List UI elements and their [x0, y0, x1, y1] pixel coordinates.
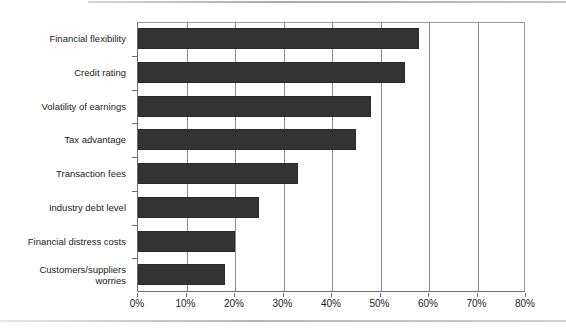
- bar-row: [137, 191, 525, 225]
- y-axis-tick: [132, 56, 137, 57]
- y-axis-tick: [132, 90, 137, 91]
- bar-row: [137, 225, 525, 259]
- x-axis-tick-label: 0%: [130, 298, 144, 309]
- category-label: Customers/suppliers worries: [0, 258, 131, 292]
- x-axis-tick: [380, 293, 381, 297]
- bar: [138, 163, 298, 184]
- bar: [138, 96, 371, 117]
- bar-row: [137, 56, 525, 90]
- bar-row: [137, 90, 525, 124]
- bar: [138, 129, 356, 150]
- x-axis-tick: [234, 293, 235, 297]
- bar-row: [137, 22, 525, 56]
- category-label: Volatility of earnings: [0, 90, 131, 124]
- x-axis-tick-label: 20%: [224, 298, 244, 309]
- y-axis-tick: [132, 123, 137, 124]
- bar-series: [137, 22, 525, 292]
- y-axis-tick: [132, 157, 137, 158]
- category-label: Credit rating: [0, 56, 131, 90]
- x-axis-tick: [331, 293, 332, 297]
- x-axis-tick-label: 60%: [418, 298, 438, 309]
- bar: [138, 62, 405, 83]
- category-label: Transaction fees: [0, 157, 131, 191]
- y-axis-tick: [132, 258, 137, 259]
- value-axis-labels: 0%10%20%30%40%50%60%70%80%: [137, 293, 525, 313]
- category-label: Financial flexibility: [0, 22, 131, 56]
- x-axis-tick: [283, 293, 284, 297]
- x-axis-tick-label: 30%: [272, 298, 292, 309]
- x-axis-tick: [137, 293, 138, 297]
- bar: [138, 197, 259, 218]
- x-axis-tick-label: 70%: [466, 298, 486, 309]
- x-axis-tick-label: 40%: [321, 298, 341, 309]
- horizontal-bar-chart: Financial flexibilityCredit ratingVolati…: [0, 0, 566, 328]
- y-axis-tick: [132, 191, 137, 192]
- bar-row: [137, 157, 525, 191]
- bar: [138, 231, 235, 252]
- x-axis-tick: [525, 293, 526, 297]
- bar: [138, 28, 419, 49]
- x-axis-tick: [186, 293, 187, 297]
- category-label: Financial distress costs: [0, 225, 131, 259]
- category-axis-labels: Financial flexibilityCredit ratingVolati…: [0, 22, 131, 292]
- x-axis-tick-label: 50%: [369, 298, 389, 309]
- bar-row: [137, 258, 525, 292]
- category-label: Industry debt level: [0, 191, 131, 225]
- x-axis-tick-label: 80%: [515, 298, 535, 309]
- category-label: Tax advantage: [0, 123, 131, 157]
- y-axis-tick: [132, 225, 137, 226]
- x-axis-tick: [477, 293, 478, 297]
- x-axis-tick: [428, 293, 429, 297]
- bar: [138, 264, 225, 285]
- bar-row: [137, 123, 525, 157]
- x-axis-tick-label: 10%: [175, 298, 195, 309]
